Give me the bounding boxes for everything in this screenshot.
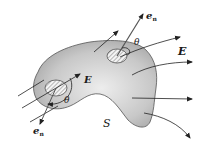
en-label-bottom: en xyxy=(33,126,44,137)
surface-label-S: S xyxy=(103,118,111,129)
en-label-top: en xyxy=(146,11,157,22)
diagram-graphics xyxy=(0,0,201,149)
field-label-E-center: E xyxy=(84,75,92,85)
theta-label-top: θ xyxy=(134,38,139,47)
field-label-E-right: E xyxy=(178,46,186,57)
gauss-flux-diagram: en θ E E θ S en xyxy=(0,0,201,149)
theta-label-left: θ xyxy=(64,96,69,105)
